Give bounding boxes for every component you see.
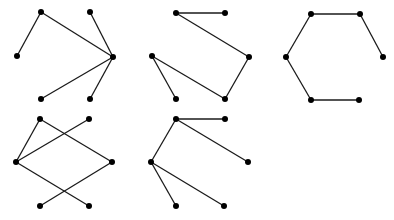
edge-tl-r xyxy=(40,119,112,162)
vertex-tl xyxy=(173,116,179,122)
vertex-tr xyxy=(222,10,228,16)
vertex-l xyxy=(149,53,155,59)
vertex-l xyxy=(283,54,289,60)
edge-tl-l xyxy=(17,12,41,56)
vertex-br xyxy=(86,203,92,209)
edge-l-bl xyxy=(151,162,176,206)
edge-l-br xyxy=(151,162,224,206)
vertex-bl xyxy=(173,203,179,209)
vertex-bl xyxy=(308,97,314,103)
vertex-r xyxy=(380,54,386,60)
vertex-tr xyxy=(357,11,363,17)
edge-tr-r xyxy=(360,14,383,57)
graph-1 xyxy=(14,9,116,102)
graph-3 xyxy=(283,11,386,103)
vertex-br xyxy=(222,96,228,102)
edge-tl-r xyxy=(176,13,249,57)
vertex-tr xyxy=(87,9,93,15)
vertex-l xyxy=(14,53,20,59)
vertex-bl xyxy=(37,203,43,209)
vertex-r xyxy=(110,54,116,60)
edge-l-bl xyxy=(286,57,311,100)
edge-r-bl xyxy=(40,162,112,206)
vertex-br xyxy=(356,97,362,103)
graph-4 xyxy=(13,116,115,209)
vertex-bl xyxy=(38,96,44,102)
vertex-tl xyxy=(173,10,179,16)
vertex-r xyxy=(246,54,252,60)
vertex-l xyxy=(148,159,154,165)
edge-tr-l xyxy=(16,119,89,162)
vertex-br xyxy=(221,203,227,209)
graph-figure xyxy=(0,0,394,220)
vertex-tr xyxy=(86,116,92,122)
edge-r-br xyxy=(225,57,249,99)
graph-5 xyxy=(148,116,251,209)
vertex-tl xyxy=(38,9,44,15)
edge-l-br xyxy=(16,162,89,206)
edge-tl-l xyxy=(286,14,311,57)
vertex-br xyxy=(87,96,93,102)
graph-2 xyxy=(149,10,252,102)
vertex-l xyxy=(13,159,19,165)
edge-br-l xyxy=(152,56,225,99)
edge-tl-r xyxy=(176,119,248,162)
edge-tl-l xyxy=(151,119,176,162)
vertex-tl xyxy=(37,116,43,122)
vertex-r xyxy=(109,159,115,165)
vertex-bl xyxy=(173,96,179,102)
vertex-r xyxy=(245,159,251,165)
vertex-tr xyxy=(222,116,228,122)
vertex-tl xyxy=(308,11,314,17)
